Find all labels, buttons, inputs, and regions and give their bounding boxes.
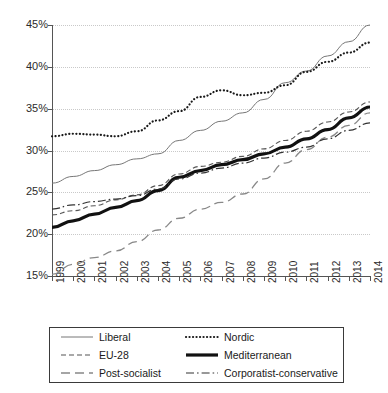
x-tick-mark xyxy=(200,276,201,281)
y-tick: 30% xyxy=(0,145,48,156)
chart-screenshot: 45%40%35%30%25%20%15% 199920002001200220… xyxy=(0,0,388,393)
y-tick-label: 35% xyxy=(4,103,48,114)
y-tick: 45% xyxy=(0,19,48,30)
y-tick-label: 45% xyxy=(4,19,48,30)
series-line-eu-28 xyxy=(52,102,370,215)
y-tick: 20% xyxy=(0,228,48,239)
legend-label: Post-socialist xyxy=(99,368,161,379)
x-tick-mark xyxy=(306,276,307,281)
series-line-liberal xyxy=(52,25,370,183)
y-tick: 15% xyxy=(0,270,48,281)
x-tick-mark xyxy=(370,276,371,281)
legend-item-mediterranean[interactable]: Mediterranean xyxy=(175,350,343,361)
legend-item-nordic[interactable]: Nordic xyxy=(175,332,343,343)
x-tick-mark xyxy=(264,276,265,281)
legend-item-corporatist-conservative[interactable]: Corporatist-conservative xyxy=(175,368,343,379)
y-tick: 40% xyxy=(0,61,48,72)
x-tick-mark xyxy=(349,276,350,281)
x-tick-label: 2014 xyxy=(374,261,384,283)
x-tick-mark xyxy=(222,276,223,281)
legend-label: Mediterranean xyxy=(224,350,292,361)
y-tick-label: 30% xyxy=(4,145,48,156)
x-tick-mark xyxy=(116,276,117,281)
legend-item-post-socialist[interactable]: Post-socialist xyxy=(50,368,175,379)
legend-swatch-dash-dot xyxy=(185,368,219,378)
legend-label: Nordic xyxy=(224,332,254,343)
y-tick-label: 20% xyxy=(4,228,48,239)
series-line-nordic xyxy=(52,43,370,137)
legend-swatch-dotted xyxy=(185,332,219,342)
legend-swatch-dashed-long xyxy=(60,368,94,378)
plot-lines xyxy=(52,25,370,276)
y-tick-label: 25% xyxy=(4,186,48,197)
x-tick-mark xyxy=(328,276,329,281)
legend-swatch-solid-thin xyxy=(60,332,94,342)
line-chart: 45%40%35%30%25%20%15% 199920002001200220… xyxy=(0,0,388,315)
y-tick: 35% xyxy=(0,103,48,114)
legend-item-eu-28[interactable]: EU-28 xyxy=(50,350,175,361)
y-tick-label: 15% xyxy=(4,270,48,281)
chart-legend: LiberalNordicEU-28MediterraneanPost-soci… xyxy=(49,327,344,383)
y-tick-label: 40% xyxy=(4,61,48,72)
legend-item-liberal[interactable]: Liberal xyxy=(50,332,175,343)
x-tick-mark xyxy=(158,276,159,281)
legend-swatch-solid-thick xyxy=(185,350,219,360)
legend-label: Corporatist-conservative xyxy=(224,368,338,379)
y-tick: 25% xyxy=(0,186,48,197)
series-line-post-socialist xyxy=(52,113,370,274)
x-tick-mark xyxy=(73,276,74,281)
legend-grid: LiberalNordicEU-28MediterraneanPost-soci… xyxy=(50,328,343,382)
x-tick-mark xyxy=(94,276,95,281)
legend-label: Liberal xyxy=(99,332,131,343)
series-line-mediterranean xyxy=(52,107,370,227)
x-tick-mark xyxy=(137,276,138,281)
legend-label: EU-28 xyxy=(99,350,129,361)
x-tick-mark xyxy=(179,276,180,281)
x-tick-mark xyxy=(285,276,286,281)
legend-swatch-dashed-short xyxy=(60,350,94,360)
x-tick-mark xyxy=(52,276,53,281)
x-tick-mark xyxy=(243,276,244,281)
